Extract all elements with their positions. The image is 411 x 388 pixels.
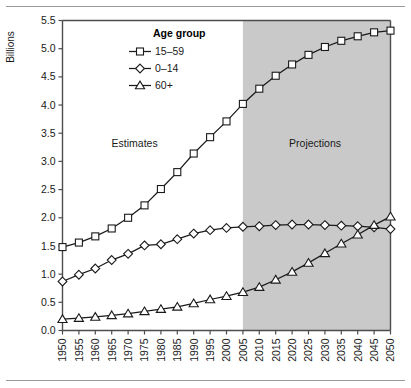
x-tick-label: 2005 <box>237 338 249 362</box>
square-marker <box>174 169 181 176</box>
square-marker <box>272 72 279 79</box>
y-axis-title: Billions <box>5 31 16 63</box>
y-tick-label: 3.5 <box>41 127 56 139</box>
x-tick-label: 2035 <box>335 338 347 362</box>
diamond-marker <box>136 64 145 73</box>
x-tick-label: 1955 <box>73 338 85 362</box>
legend-entry-label: 60+ <box>155 79 173 91</box>
y-tick-label: 4.0 <box>41 99 56 111</box>
chart-annotations: EstimatesProjections <box>112 137 341 149</box>
square-marker <box>321 43 328 50</box>
diamond-marker <box>75 270 84 279</box>
diamond-marker <box>140 241 149 250</box>
x-tick-label: 2050 <box>384 338 396 362</box>
x-tick-label: 2030 <box>319 338 331 362</box>
legend-entry-label: 0–14 <box>155 62 179 74</box>
y-tick-label: 0.5 <box>41 296 56 308</box>
square-marker <box>256 85 263 92</box>
square-marker <box>354 33 361 40</box>
y-tick-label: 4.5 <box>41 70 56 82</box>
annotation-estimates: Estimates <box>112 137 158 149</box>
figure-container: 0.00.51.01.52.02.53.03.54.04.55.05.5 195… <box>0 0 411 388</box>
legend-entry-0-14[interactable]: 0–14 <box>129 62 179 74</box>
square-marker <box>239 100 246 107</box>
square-marker <box>59 244 66 251</box>
x-tick-label: 2010 <box>253 338 265 362</box>
population-by-age-group-line-chart: 0.00.51.01.52.02.53.03.54.04.55.05.5 195… <box>0 0 411 388</box>
x-tick-label: 1985 <box>171 338 183 362</box>
square-marker <box>305 51 312 58</box>
y-axis-ticks: 0.00.51.01.52.02.53.03.54.04.55.05.5 <box>41 14 63 336</box>
x-tick-label: 1995 <box>204 338 216 362</box>
square-marker <box>371 29 378 36</box>
x-tick-label: 2025 <box>302 338 314 362</box>
y-tick-label: 0.0 <box>41 324 56 336</box>
diamond-marker <box>124 249 133 258</box>
diamond-marker <box>173 235 182 244</box>
square-marker <box>92 233 99 240</box>
x-tick-label: 1970 <box>122 338 134 362</box>
square-marker <box>223 118 230 125</box>
y-tick-label: 5.5 <box>41 14 56 26</box>
x-tick-label: 1980 <box>155 338 167 362</box>
x-tick-label: 2000 <box>220 338 232 362</box>
square-marker <box>125 214 132 221</box>
x-tick-label: 1990 <box>188 338 200 362</box>
legend-title: Age group <box>153 27 206 39</box>
square-marker <box>387 27 394 34</box>
y-tick-label: 3.0 <box>41 155 56 167</box>
square-marker <box>75 239 82 246</box>
x-tick-label: 1960 <box>89 338 101 362</box>
square-marker <box>157 186 164 193</box>
y-tick-label: 1.5 <box>41 240 56 252</box>
legend-entry-60+[interactable]: 60+ <box>129 79 173 91</box>
diamond-marker <box>58 277 67 286</box>
chart-legend: Age group15–590–1460+ <box>129 27 206 91</box>
legend-entry-label: 15–59 <box>155 45 184 57</box>
diamond-marker <box>91 264 100 273</box>
y-tick-label: 2.0 <box>41 211 56 223</box>
square-marker <box>289 61 296 68</box>
y-tick-label: 2.5 <box>41 183 56 195</box>
x-tick-label: 1975 <box>138 338 150 362</box>
y-axis-title-text: Billions <box>5 31 16 63</box>
legend-entry-15-59[interactable]: 15–59 <box>129 45 184 57</box>
diamond-marker <box>189 229 198 238</box>
diamond-marker <box>222 224 231 233</box>
x-tick-label: 2045 <box>368 338 380 362</box>
x-axis-ticks: 1950195519601965197019751980198519901995… <box>56 331 396 362</box>
diamond-marker <box>107 256 116 265</box>
square-marker <box>141 202 148 209</box>
x-tick-label: 2040 <box>352 338 364 362</box>
x-tick-label: 2015 <box>270 338 282 362</box>
y-tick-label: 1.0 <box>41 268 56 280</box>
diamond-marker <box>206 226 215 235</box>
square-marker <box>108 225 115 232</box>
square-marker <box>207 134 214 141</box>
square-marker <box>338 37 345 44</box>
y-tick-label: 5.0 <box>41 42 56 54</box>
square-marker <box>190 150 197 157</box>
x-tick-label: 2020 <box>286 338 298 362</box>
x-tick-label: 1965 <box>106 338 118 362</box>
annotation-projections: Projections <box>289 137 341 149</box>
square-marker <box>137 48 144 55</box>
x-tick-label: 1950 <box>56 338 68 362</box>
diamond-marker <box>157 240 166 249</box>
